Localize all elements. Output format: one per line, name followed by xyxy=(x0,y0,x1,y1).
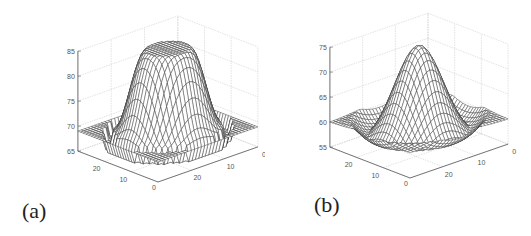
y-tick-label: 20 xyxy=(345,161,353,168)
x-tick-label: 20 xyxy=(445,171,453,178)
chart-panel-a: 65707580852010020100 (a) xyxy=(0,0,265,236)
surface-plot-b: 55606570752010020100 xyxy=(265,0,531,236)
z-tick-label: 65 xyxy=(67,148,75,155)
z-tick-label: 55 xyxy=(319,144,327,151)
chart-panel-b: 55606570752010020100 (b) xyxy=(265,0,531,236)
surface-mesh xyxy=(330,46,508,153)
z-tick-label: 75 xyxy=(319,44,327,51)
y-tick-label: 20 xyxy=(93,165,101,172)
x-tick-label: 10 xyxy=(478,159,486,166)
caption-a: (a) xyxy=(22,198,46,224)
z-tick-label: 75 xyxy=(67,98,75,105)
x-tick-label: 10 xyxy=(227,163,235,170)
caption-b: (b) xyxy=(314,192,340,218)
z-tick-label: 85 xyxy=(67,48,75,55)
z-tick-label: 80 xyxy=(67,73,75,80)
z-tick-label: 65 xyxy=(319,94,327,101)
z-tick-label: 70 xyxy=(319,69,327,76)
x-tick-label: 20 xyxy=(193,174,201,181)
y-tick-label: 10 xyxy=(371,172,379,179)
z-tick-label: 70 xyxy=(67,123,75,130)
z-tick-label: 60 xyxy=(319,119,327,126)
x-tick-label: 0 xyxy=(512,148,516,155)
origin-tick-label: 0 xyxy=(404,180,408,187)
y-tick-label: 10 xyxy=(119,176,127,183)
origin-tick-label: 0 xyxy=(152,184,156,191)
